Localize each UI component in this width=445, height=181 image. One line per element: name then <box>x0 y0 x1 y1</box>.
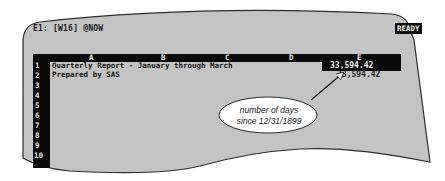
cell-e2[interactable]: 33,594.42 <box>337 70 380 79</box>
row-header-8[interactable]: 8 <box>35 131 40 140</box>
figure: E1: [W16] @NOW READY A B C D E 1 2 3 4 5… <box>0 0 445 181</box>
row-header-3[interactable]: 3 <box>35 81 40 90</box>
callout-line-1: number of days <box>228 105 310 116</box>
row-header-1[interactable]: 1 <box>35 61 40 70</box>
callout-line-2: since 12/31/1899 <box>228 116 310 127</box>
row-header-6[interactable]: 6 <box>35 111 40 120</box>
row-header-10[interactable]: 10 <box>34 151 43 160</box>
column-header-d[interactable]: D <box>289 53 294 62</box>
cell-status-line: E1: [W16] @NOW <box>33 24 103 33</box>
cell-a2[interactable]: Prepared by SAS <box>52 70 120 79</box>
cell-a1[interactable]: Quarterly Report - January through March <box>52 61 233 70</box>
mode-indicator-badge: READY <box>395 23 422 34</box>
row-header-9[interactable]: 9 <box>35 141 40 150</box>
callout-text: number of days since 12/31/1899 <box>228 105 310 127</box>
cell-e1[interactable]: 33,594.42 <box>330 61 373 70</box>
row-header-7[interactable]: 7 <box>35 121 40 130</box>
row-header-2[interactable]: 2 <box>35 71 40 80</box>
row-header-4[interactable]: 4 <box>35 91 40 100</box>
row-header-5[interactable]: 5 <box>35 101 40 110</box>
